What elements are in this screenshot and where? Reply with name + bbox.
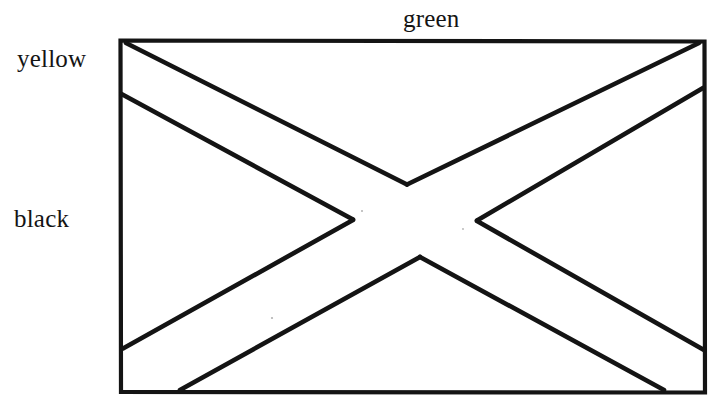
label-green: green [403,6,460,31]
label-black: black [14,206,69,231]
saltire-edge-upper-left-outer [126,43,407,185]
saltire-edge-lower-left-outer [123,220,353,349]
flag-border-path [121,41,706,393]
flag-color-diagram: green yellow black [0,0,725,420]
saltire-arm-lower-right [420,221,704,390]
saltire-arm-upper-right [407,43,703,221]
label-yellow: yellow [17,46,86,71]
saltire-edge-lower-right-outer [477,221,704,350]
flag-border [121,41,706,393]
saltire-edge-upper-left-inner [122,94,354,220]
saltire-edge-upper-right-inner [477,88,703,221]
saltire-edge-lower-right-inner [420,257,664,390]
saltire-arm-upper-left [122,43,408,220]
saltire-arm-lower-left [123,220,420,390]
flag-outline-drawing [0,0,725,420]
saltire-edge-lower-left-inner [180,257,420,390]
